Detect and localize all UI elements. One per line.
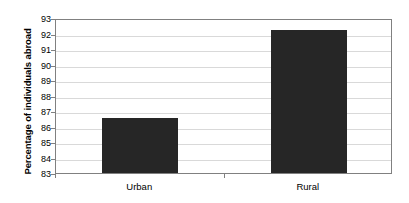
y-axis-tick-label-group: 9392919089888786858483 — [26, 19, 51, 174]
y-axis-tick-label: 88 — [41, 92, 51, 101]
y-axis-tick-label: 83 — [41, 170, 51, 179]
y-axis-tick-label: 90 — [41, 61, 51, 70]
bar-chart: Percentage of individuals abroad 9392919… — [0, 0, 409, 203]
x-axis-tick-label: Urban — [126, 182, 152, 192]
bar — [102, 118, 178, 173]
y-axis-tick-label: 91 — [41, 46, 51, 55]
y-axis-tick-label: 84 — [41, 154, 51, 163]
x-axis-tick-mark — [224, 174, 225, 178]
x-axis-tick-label: Rural — [296, 182, 319, 192]
y-axis-tick-label: 86 — [41, 123, 51, 132]
plot-area — [55, 19, 392, 174]
y-axis-tick-label: 87 — [41, 108, 51, 117]
x-axis-tick-mark — [55, 174, 56, 178]
y-axis-tick-label: 85 — [41, 139, 51, 148]
y-axis-tick-label: 89 — [41, 77, 51, 86]
y-axis-tick-label: 92 — [41, 30, 51, 39]
y-axis-tick-label: 93 — [41, 15, 51, 24]
bar — [271, 30, 347, 173]
